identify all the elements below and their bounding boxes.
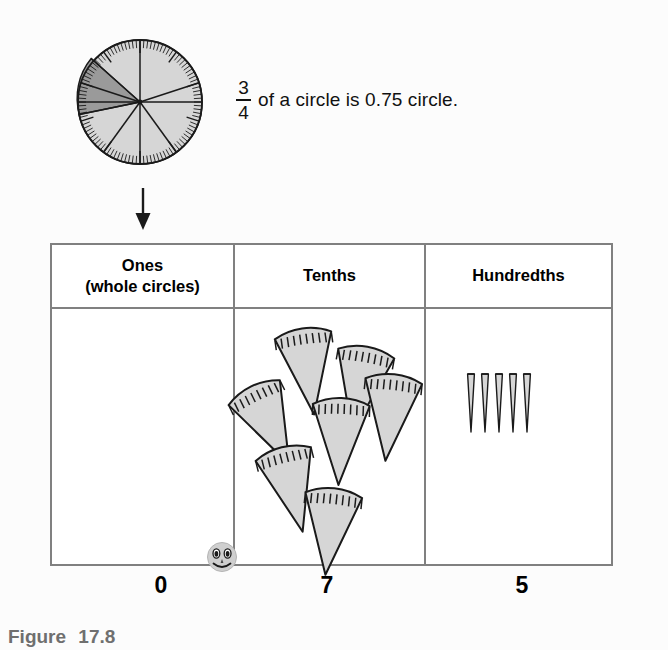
header-hundredths-line1: Hundredths [472,265,565,286]
circle-caption-text: of a circle is 0.75 circle. [258,89,458,111]
header-ones-line2: (whole circles) [85,276,200,297]
figure-caption-label: Figure [8,626,66,647]
table-cell-hundredths [426,309,611,566]
circle-caption: 3 4 of a circle is 0.75 circle. [236,78,458,122]
hundredths-piece-group [426,309,611,566]
table-header-row: Ones (whole circles) Tenths Hundredths [52,245,611,309]
hundredth-sliver-piece [494,371,504,433]
figure-caption: Figure 17.8 [8,626,115,648]
hundredth-sliver-piece [466,371,476,433]
down-arrow-icon [118,186,168,232]
place-value-table: Ones (whole circles) Tenths Hundredths [50,243,613,566]
circle-illustration-area: 3 4 of a circle is 0.75 circle. [0,0,668,230]
fraction-numerator: 3 [236,78,251,98]
table-cell-ones [52,309,233,566]
table-body-row [52,309,611,566]
table-header-hundredths: Hundredths [426,245,611,307]
tenth-wedge-piece [359,371,421,463]
figure-root: 3 4 of a circle is 0.75 circle. Ones (wh… [0,0,668,650]
tenth-wedge-piece [299,485,361,577]
fraction-three-fourths: 3 4 [236,78,251,122]
ones-piece-group [52,309,233,566]
fraction-denominator: 4 [236,102,251,122]
hundredth-sliver-piece [522,371,532,433]
figure-caption-number: 17.8 [78,626,115,647]
digit-hundredths: 5 [502,572,542,599]
tenths-piece-group [235,309,424,566]
digit-ones: 0 [141,572,181,599]
digits-row: 0 7 5 [50,572,613,608]
smiley-face-decimal-point-icon [203,537,241,575]
hundredth-sliver-piece [480,371,490,433]
digit-tenths: 7 [307,572,347,599]
fraction-circle-diagram [66,28,214,176]
table-header-ones: Ones (whole circles) [52,245,233,307]
fraction-bar [236,99,251,101]
table-cell-tenths [233,309,426,566]
header-tenths-line1: Tenths [303,265,356,286]
table-header-tenths: Tenths [233,245,426,307]
hundredth-sliver-piece [508,371,518,433]
header-ones-line1: Ones [122,255,163,276]
